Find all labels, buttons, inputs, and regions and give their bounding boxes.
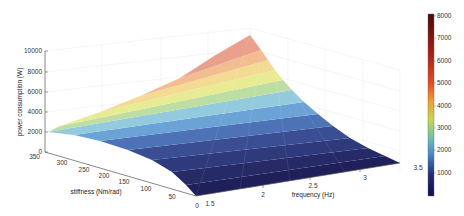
x-tick: 3 [363,174,367,181]
y-axis-label: stiffness (Nm/rad) [70,188,121,196]
colorbar-tick: 3000 [437,124,452,131]
colorbar-tick: 5000 [437,79,452,86]
x-tick: 3.5 [413,164,422,171]
surface-plot: 0 2000 4000 6000 8000 10000 power consum… [0,0,464,216]
y-tick: 300 [57,159,68,166]
colorbar-tick: 1000 [437,169,452,176]
y-tick: 200 [99,172,110,179]
y-tick: 150 [119,178,130,185]
z-tick: 10000 [24,47,42,54]
y-tick: 50 [168,193,176,200]
z-tick: 4000 [28,108,43,115]
z-tick: 8000 [28,68,43,75]
z-axis: 0 2000 4000 6000 8000 10000 power consum… [16,47,48,155]
x-tick: 2.5 [308,182,317,189]
x-axis-label: frequency (Hz) [292,191,335,199]
colorbar-tick: 7000 [437,34,452,41]
x-tick: 2 [261,191,265,198]
z-tick: 2000 [28,128,43,135]
colorbar-tick: 4000 [437,102,452,109]
y-tick: 250 [79,166,90,173]
colorbar: 1000 2000 3000 4000 5000 6000 7000 8000 [428,12,452,196]
z-tick: 6000 [28,88,43,95]
y-tick: 100 [141,185,152,192]
x-tick: 1.5 [205,200,214,207]
z-axis-label: power consumption (W) [16,68,24,137]
y-tick: 0 [195,202,199,209]
colorbar-tick: 6000 [437,57,452,64]
colorbar-tick: 8000 [437,12,452,19]
colorbar-tick: 2000 [437,146,452,153]
y-tick: 350 [29,153,40,160]
